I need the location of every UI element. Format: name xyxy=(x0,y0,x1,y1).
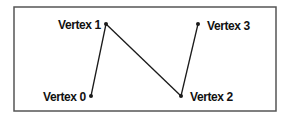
vertex-1-dot xyxy=(104,22,108,26)
vertex-3-dot xyxy=(196,22,200,26)
edges-group xyxy=(91,24,198,96)
edge-1-2 xyxy=(106,24,181,96)
vertex-diagram: Vertex 0 Vertex 1 Vertex 2 Vertex 3 xyxy=(0,0,289,117)
vertex-3-label: Vertex 3 xyxy=(207,19,251,33)
labels-group: Vertex 0 Vertex 1 Vertex 2 Vertex 3 xyxy=(43,18,251,104)
vertex-0-label: Vertex 0 xyxy=(43,90,87,104)
edge-2-3 xyxy=(181,24,198,96)
vertex-2-dot xyxy=(179,94,183,98)
edge-0-1 xyxy=(91,24,106,96)
vertex-1-label: Vertex 1 xyxy=(58,18,102,32)
vertex-2-label: Vertex 2 xyxy=(190,90,234,104)
vertex-0-dot xyxy=(89,94,93,98)
